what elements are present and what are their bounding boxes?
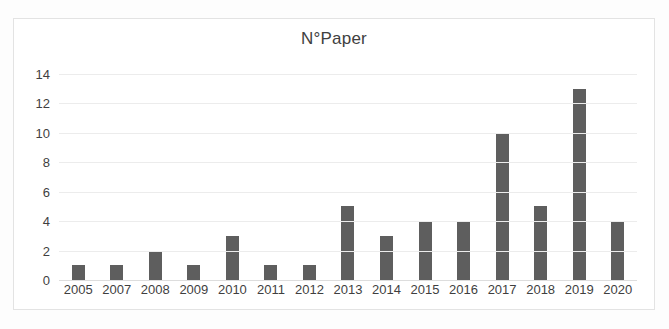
bar-slot — [560, 74, 599, 280]
bar-slot — [598, 74, 637, 280]
bar-slot — [329, 74, 368, 280]
bar-slot — [290, 74, 329, 280]
y-axis-tick-label: 0 — [43, 273, 50, 288]
y-axis-tick-label: 10 — [36, 125, 50, 140]
x-axis-tick-label: 2020 — [598, 282, 637, 297]
bar[interactable] — [380, 236, 393, 280]
bar-slot — [213, 74, 252, 280]
chart-title: N°Paper — [14, 29, 654, 49]
x-axis-tick-label: 2011 — [252, 282, 291, 297]
y-axis-tick-label: 6 — [43, 184, 50, 199]
bar-slot — [483, 74, 522, 280]
bar-slot — [59, 74, 98, 280]
bar-slot — [175, 74, 214, 280]
bar-slot — [252, 74, 291, 280]
x-axis-tick-label: 2007 — [98, 282, 137, 297]
bar[interactable] — [72, 265, 85, 280]
bar[interactable] — [534, 206, 547, 280]
x-axis-tick-label: 2013 — [329, 282, 368, 297]
gridline — [59, 103, 637, 104]
bar-slot — [444, 74, 483, 280]
y-axis-tick-label: 2 — [43, 243, 50, 258]
bar-slot — [521, 74, 560, 280]
x-axis-tick-label: 2015 — [406, 282, 445, 297]
y-axis-tick-label: 8 — [43, 155, 50, 170]
x-axis-tick-label: 2019 — [560, 282, 599, 297]
plot-area: 14121086420 — [59, 74, 637, 280]
bar-slot — [406, 74, 445, 280]
x-axis-tick-label: 2018 — [521, 282, 560, 297]
x-axis-tick-label: 2010 — [213, 282, 252, 297]
bar[interactable] — [187, 265, 200, 280]
gridline — [59, 162, 637, 163]
bar-slot — [367, 74, 406, 280]
gridline — [59, 74, 637, 75]
gridline — [59, 280, 637, 281]
bar[interactable] — [496, 133, 509, 280]
gridline — [59, 251, 637, 252]
bar[interactable] — [110, 265, 123, 280]
gridline — [59, 192, 637, 193]
bar[interactable] — [226, 236, 239, 280]
gridline — [59, 221, 637, 222]
bar[interactable] — [303, 265, 316, 280]
x-axis-tick-label: 2009 — [175, 282, 214, 297]
chart-container: N°Paper 14121086420 20052007200820092010… — [13, 18, 655, 310]
x-axis-tick-label: 2016 — [444, 282, 483, 297]
y-axis-tick-label: 14 — [36, 67, 50, 82]
x-axis-tick-label: 2017 — [483, 282, 522, 297]
x-axis-tick-label: 2012 — [290, 282, 329, 297]
x-axis-tick-label: 2005 — [59, 282, 98, 297]
bar-series — [59, 74, 637, 280]
x-axis-tick-label: 2008 — [136, 282, 175, 297]
y-axis-tick-label: 12 — [36, 96, 50, 111]
bar[interactable] — [264, 265, 277, 280]
y-axis-tick-label: 4 — [43, 214, 50, 229]
x-axis-tick-label: 2014 — [367, 282, 406, 297]
bar-slot — [98, 74, 137, 280]
x-axis-labels: 2005200720082009201020112012201320142015… — [59, 282, 637, 297]
bar[interactable] — [149, 251, 162, 280]
gridline — [59, 133, 637, 134]
bar[interactable] — [341, 206, 354, 280]
bar-slot — [136, 74, 175, 280]
